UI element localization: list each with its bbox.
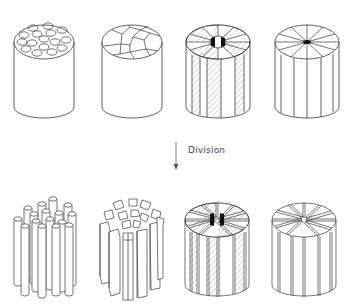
separated-polygonal-columns [100,199,164,300]
division-label: Division [188,145,225,155]
division-arrow [174,142,179,170]
cylinder-polygonal-cells [102,25,162,118]
core [303,40,311,44]
separated-rods [14,197,76,298]
split-hatched-cylinder [185,203,249,297]
cylinder-hatched-sectors [186,25,250,118]
cylinder-plain-sectors [275,25,339,118]
division-diagram [0,0,355,307]
cylinder-rod-bundle [14,23,74,118]
split-plain-cylinder [272,203,336,297]
